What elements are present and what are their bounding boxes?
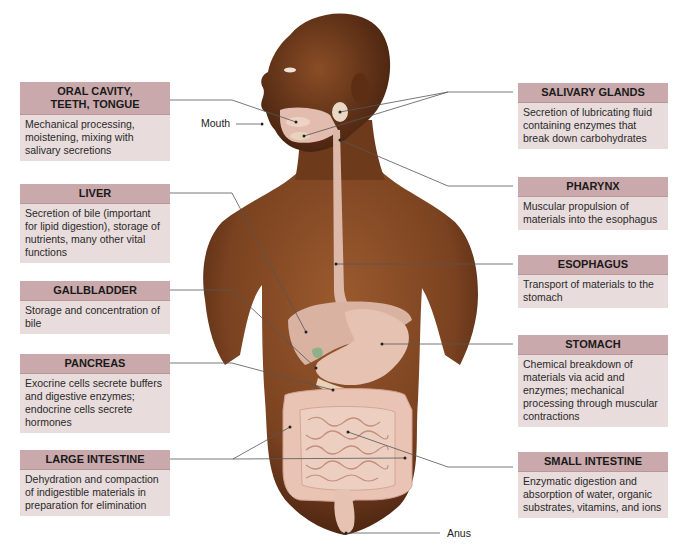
oral-cavity-title-line1: ORAL CAVITY, <box>24 85 166 98</box>
large-intestine-description: Dehydration and compaction of indigestib… <box>20 470 170 516</box>
digestive-system-diagram: Mouth Anus ORAL CAVITY, TEETH, TONGUE Me… <box>0 0 684 551</box>
salivary-glands-description: Secretion of lubricating fluid containin… <box>518 103 668 149</box>
esophagus-description: Transport of materials to the stomach <box>518 275 668 308</box>
esophagus-box: ESOPHAGUS Transport of materials to the … <box>518 255 668 308</box>
salivary-glands-box: SALIVARY GLANDS Secretion of lubricating… <box>518 83 668 149</box>
pharynx-title: PHARYNX <box>518 177 668 197</box>
liver-title: LIVER <box>20 184 170 204</box>
esophagus-title: ESOPHAGUS <box>518 255 668 275</box>
small-intestine-box: SMALL INTESTINE Enzymatic digestion and … <box>518 452 668 518</box>
pancreas-box: PANCREAS Exocrine cells secrete buffers … <box>20 354 170 433</box>
oral-cavity-title-line2: TEETH, TONGUE <box>24 98 166 111</box>
liver-description: Secretion of bile (important for lipid d… <box>20 204 170 263</box>
pharynx-box: PHARYNX Muscular propulsion of materials… <box>518 177 668 230</box>
gallbladder-box: GALLBLADDER Storage and concentration of… <box>20 281 170 334</box>
large-intestine-title: LARGE INTESTINE <box>20 450 170 470</box>
small-intestine-description: Enzymatic digestion and absorption of wa… <box>518 472 668 518</box>
gallbladder-description: Storage and concentration of bile <box>20 301 170 334</box>
stomach-description: Chemical breakdown of materials via acid… <box>518 355 668 427</box>
stomach-title: STOMACH <box>518 335 668 355</box>
oral-cavity-description: Mechanical processing, moistening, mixin… <box>20 115 170 161</box>
small-intestine-title: SMALL INTESTINE <box>518 452 668 472</box>
salivary-glands-title: SALIVARY GLANDS <box>518 83 668 103</box>
mouth-label: Mouth <box>201 117 230 129</box>
oral-cavity-box: ORAL CAVITY, TEETH, TONGUE Mechanical pr… <box>20 82 170 161</box>
pancreas-title: PANCREAS <box>20 354 170 374</box>
stomach-box: STOMACH Chemical breakdown of materials … <box>518 335 668 427</box>
large-intestine-box: LARGE INTESTINE Dehydration and compacti… <box>20 450 170 516</box>
pancreas-description: Exocrine cells secrete buffers and diges… <box>20 374 170 433</box>
pharynx-description: Muscular propulsion of materials into th… <box>518 197 668 230</box>
liver-box: LIVER Secretion of bile (important for l… <box>20 184 170 263</box>
oral-cavity-title: ORAL CAVITY, TEETH, TONGUE <box>20 82 170 115</box>
anus-label: Anus <box>447 527 471 539</box>
gallbladder-title: GALLBLADDER <box>20 281 170 301</box>
